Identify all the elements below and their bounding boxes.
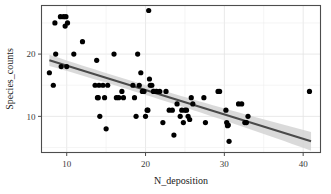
data-point bbox=[138, 70, 143, 75]
y-axis-label: Species_counts bbox=[4, 48, 15, 110]
y-axis-tick-label: 10 bbox=[27, 112, 37, 122]
data-point bbox=[149, 83, 154, 88]
data-point bbox=[157, 89, 162, 94]
x-axis-label: N_deposition bbox=[154, 175, 208, 186]
data-point bbox=[80, 39, 85, 44]
data-point bbox=[160, 120, 165, 125]
data-point bbox=[174, 101, 179, 106]
data-point bbox=[163, 89, 168, 94]
data-point bbox=[53, 51, 58, 56]
data-point bbox=[51, 83, 56, 88]
data-point bbox=[133, 114, 138, 119]
data-point bbox=[239, 101, 244, 106]
x-axis-tick-label: 20 bbox=[141, 159, 151, 169]
data-point bbox=[244, 120, 249, 125]
data-point bbox=[96, 95, 101, 100]
scatter-plot-figure: 102030401020N_depositionSpecies_counts bbox=[0, 0, 331, 194]
data-point bbox=[226, 122, 231, 127]
data-point bbox=[65, 20, 70, 25]
data-point bbox=[178, 114, 183, 119]
x-axis-tick-label: 30 bbox=[220, 159, 230, 169]
data-point bbox=[203, 120, 208, 125]
data-point bbox=[190, 101, 195, 106]
data-point bbox=[71, 51, 76, 56]
data-point bbox=[146, 8, 151, 13]
data-point bbox=[187, 117, 192, 122]
data-point bbox=[119, 89, 124, 94]
data-point bbox=[184, 108, 189, 113]
data-point bbox=[143, 114, 148, 119]
data-point bbox=[201, 95, 206, 100]
data-point bbox=[97, 114, 102, 119]
data-point bbox=[104, 126, 109, 131]
data-point bbox=[141, 89, 146, 94]
data-point bbox=[181, 120, 186, 125]
data-point bbox=[64, 64, 69, 69]
y-axis-tick-label: 20 bbox=[27, 49, 37, 59]
data-point bbox=[116, 95, 121, 100]
data-point bbox=[307, 89, 312, 94]
data-point bbox=[217, 89, 222, 94]
data-point bbox=[121, 95, 126, 100]
data-point bbox=[226, 139, 231, 144]
data-point bbox=[100, 83, 105, 88]
data-point bbox=[63, 14, 68, 19]
data-point bbox=[52, 20, 57, 25]
data-point bbox=[47, 70, 52, 75]
data-point bbox=[94, 58, 99, 63]
data-point bbox=[132, 95, 137, 100]
data-point bbox=[59, 64, 64, 69]
x-axis-tick-label: 40 bbox=[299, 159, 309, 169]
data-point bbox=[102, 95, 107, 100]
data-point bbox=[105, 83, 110, 88]
data-point bbox=[223, 108, 228, 113]
x-axis-tick-label: 10 bbox=[62, 159, 72, 169]
data-point bbox=[147, 76, 152, 81]
data-point bbox=[130, 83, 135, 88]
data-point bbox=[170, 108, 175, 113]
data-point bbox=[145, 108, 150, 113]
data-point bbox=[171, 132, 176, 137]
data-point bbox=[111, 51, 116, 56]
data-point bbox=[137, 83, 142, 88]
data-point bbox=[245, 114, 250, 119]
plot-canvas: 102030401020N_depositionSpecies_counts bbox=[0, 0, 331, 194]
data-point bbox=[135, 51, 140, 56]
data-point bbox=[189, 95, 194, 100]
